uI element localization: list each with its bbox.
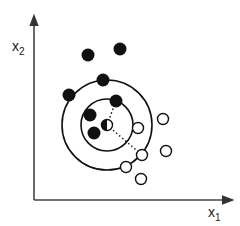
knn-diagram: x2 x1 <box>0 0 240 226</box>
filled-point <box>84 109 97 122</box>
filled-point <box>88 127 101 140</box>
axes <box>34 20 228 200</box>
hollow-point <box>158 114 169 125</box>
filled-point <box>97 74 110 87</box>
hollow-point <box>133 123 144 134</box>
hollow-point <box>137 150 148 161</box>
filled-point <box>110 95 123 108</box>
filled-point <box>114 43 127 56</box>
hollow-point <box>161 146 172 157</box>
filled-point <box>63 89 76 102</box>
query-point <box>102 120 113 131</box>
y-axis-label: x2 <box>12 38 25 57</box>
class-a-points <box>63 43 127 140</box>
hollow-point <box>136 174 147 185</box>
hollow-point <box>121 162 132 173</box>
diagram-canvas <box>0 0 240 226</box>
x-axis-label: x1 <box>208 204 221 223</box>
filled-point <box>82 49 95 62</box>
